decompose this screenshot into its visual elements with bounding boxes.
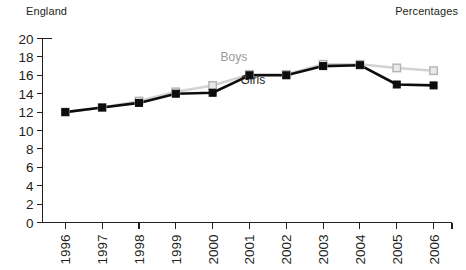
line-chart-plot: 02468101214161820 1996199719981999200020… [0, 0, 466, 270]
data-point-marker [320, 63, 327, 70]
y-tick-label: 16 [18, 68, 33, 83]
x-tick-label: 2001 [242, 235, 257, 265]
data-point-marker [209, 89, 216, 96]
y-tick-label: 14 [18, 87, 34, 102]
region-label: England [26, 5, 67, 17]
units-label: Percentages [395, 5, 458, 17]
y-tick-label: 20 [18, 32, 33, 47]
y-tick-label: 0 [26, 216, 34, 231]
series-markers-boys [62, 61, 438, 116]
x-axis-ticks: 1996199719981999200020012002200320042005… [58, 223, 452, 265]
x-tick-label: 2005 [390, 235, 405, 265]
data-point-marker [172, 90, 179, 97]
data-point-marker [135, 99, 142, 106]
data-point-marker [430, 82, 437, 89]
y-axis-ticks: 02468101214161820 [18, 32, 51, 231]
y-tick-label: 10 [18, 124, 33, 139]
data-point-marker [356, 62, 363, 69]
data-point-marker [62, 109, 69, 116]
x-tick-label: 2003 [316, 235, 331, 265]
data-point-marker [393, 64, 401, 72]
x-tick-label: 2004 [353, 234, 368, 265]
data-point-marker [283, 72, 290, 79]
y-tick-label: 2 [26, 197, 34, 212]
data-point-marker [430, 67, 438, 75]
series-label-girls: Girls [241, 73, 266, 87]
y-tick-label: 12 [18, 105, 33, 120]
y-tick-label: 8 [26, 142, 34, 157]
x-tick-label: 1996 [58, 235, 73, 265]
y-tick-label: 18 [18, 50, 33, 65]
x-tick-label: 1999 [169, 235, 184, 265]
series-markers-girls [62, 62, 437, 116]
y-tick-label: 6 [26, 160, 34, 175]
y-tick-label: 4 [26, 179, 34, 194]
data-point-marker [99, 104, 106, 111]
x-tick-label: 1998 [132, 235, 147, 265]
series-label-boys: Boys [221, 50, 248, 64]
x-tick-label: 2006 [427, 235, 442, 265]
x-tick-label: 2000 [206, 235, 221, 265]
x-tick-label: 1997 [95, 235, 110, 265]
data-point-marker [393, 81, 400, 88]
x-tick-label: 2002 [279, 235, 294, 265]
chart-container: England Percentages 02468101214161820 19… [0, 0, 466, 270]
data-point-marker [209, 82, 217, 90]
